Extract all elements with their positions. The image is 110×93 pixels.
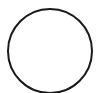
canvas bbox=[0, 0, 110, 93]
circle-outline-icon bbox=[8, 9, 92, 93]
circle-drawing bbox=[0, 0, 110, 93]
